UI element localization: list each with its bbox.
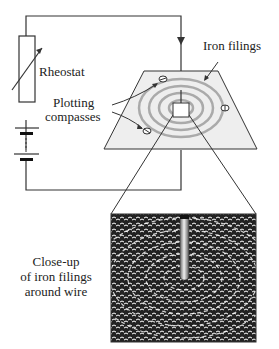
plotting-compasses-label-1: Plotting (53, 95, 95, 110)
closeup-label-3: around wire (25, 284, 88, 299)
rheostat-label: Rheostat (39, 64, 85, 79)
wire (180, 215, 189, 280)
circuit-diagram: Rheostat Iron filings Plotting co (0, 0, 279, 349)
closeup-label-2: of iron filings (20, 269, 92, 284)
iron-filings-label: Iron filings (203, 38, 261, 53)
closeup-label-1: Close-up (33, 254, 80, 269)
compass-icon (221, 105, 229, 111)
current-arrow-icon (177, 37, 185, 45)
plotting-compasses-label-2: compasses (45, 109, 101, 124)
compass-icon (143, 128, 151, 134)
closeup-region (173, 103, 189, 117)
rheostat-symbol (12, 36, 42, 102)
compass-icon (159, 76, 167, 82)
closeup-panel (92, 214, 276, 342)
